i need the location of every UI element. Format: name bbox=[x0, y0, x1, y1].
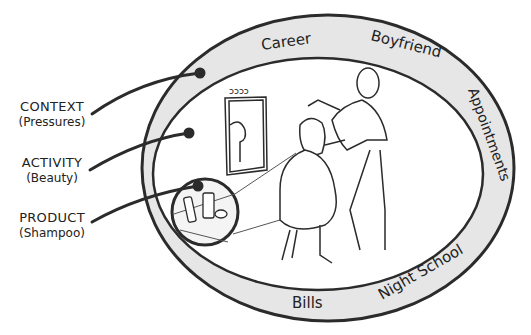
context-label-subtitle: (Pressures) bbox=[12, 115, 92, 130]
ring-word-bills: Bills bbox=[292, 294, 323, 312]
activity-label-subtitle: (Beauty) bbox=[12, 171, 92, 186]
activity-label: ACTIVITY (Beauty) bbox=[12, 155, 92, 186]
jar-icon bbox=[215, 210, 227, 218]
product-label-subtitle: (Shampoo) bbox=[12, 226, 92, 241]
product-label-title: PRODUCT bbox=[12, 210, 92, 226]
context-label: CONTEXT (Pressures) bbox=[12, 99, 92, 130]
product-label: PRODUCT (Shampoo) bbox=[12, 210, 92, 241]
activity-label-title: ACTIVITY bbox=[12, 155, 92, 171]
conditioner-bottle-icon bbox=[203, 193, 214, 218]
context-activity-product-diagram: Career Boyfriend Appointments Night Scho… bbox=[0, 0, 531, 335]
mirror-illustration: ↄↄↄↄ bbox=[225, 86, 267, 175]
context-label-title: CONTEXT bbox=[12, 99, 92, 115]
svg-text:ↄↄↄↄ: ↄↄↄↄ bbox=[229, 86, 249, 96]
